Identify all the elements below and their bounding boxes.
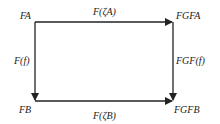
- node-top-left: FA: [20, 11, 31, 21]
- arrow-label-bottom: F(ζB): [93, 111, 116, 121]
- arrow-label-left: F(f): [14, 56, 30, 66]
- node-bottom-right: FGFB: [174, 105, 200, 115]
- commutative-diagram: FA FGFA FB FGFB F(ζA) F(ζB) F(f) FGF(f): [0, 0, 220, 124]
- node-bottom-left: FB: [19, 105, 31, 115]
- node-top-right: FGFA: [176, 11, 200, 21]
- arrow-label-top: F(ζA): [93, 7, 116, 17]
- arrow-label-right: FGF(f): [176, 56, 205, 66]
